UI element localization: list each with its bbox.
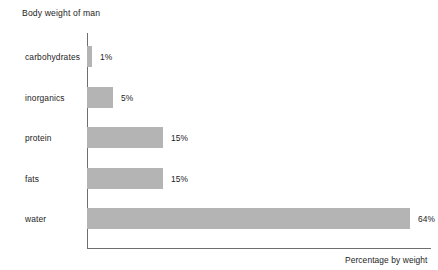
- category-label-inorganics: inorganics: [25, 93, 65, 103]
- bar-inorganics: [87, 87, 113, 108]
- bar-row: 1%: [87, 46, 438, 67]
- chart-title: Body weight of man: [22, 8, 100, 18]
- category-label-carbohydrates: carbohydrates: [25, 52, 80, 62]
- x-axis-title: Percentage by weight: [345, 255, 428, 265]
- x-axis-line: [87, 248, 431, 249]
- bar-value-label: 1%: [100, 52, 112, 62]
- bar-protein: [87, 127, 163, 148]
- category-label-protein: protein: [25, 133, 52, 143]
- category-label-water: water: [25, 214, 46, 224]
- bar-chart-figure: Body weight of man carbohydratesinorgani…: [0, 0, 438, 270]
- bar-row: 15%: [87, 168, 438, 189]
- category-label-fats: fats: [25, 174, 39, 184]
- bar-row: 64%: [87, 208, 438, 229]
- bar-value-label: 64%: [418, 214, 435, 224]
- bar-row: 5%: [87, 87, 438, 108]
- bar-value-label: 15%: [171, 174, 188, 184]
- bar-value-label: 5%: [121, 93, 133, 103]
- bar-row: 15%: [87, 127, 438, 148]
- bar-water: [87, 208, 410, 229]
- bar-fats: [87, 168, 163, 189]
- bar-carbohydrates: [87, 46, 92, 67]
- bar-value-label: 15%: [171, 133, 188, 143]
